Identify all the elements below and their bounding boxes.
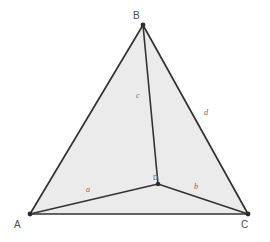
geometry-canvas: A B C D a b c d: [0, 0, 270, 242]
vertex-label-c: C: [241, 219, 248, 230]
vertex-label-b: B: [133, 10, 140, 21]
vertex-dot-a: [28, 212, 33, 217]
segment-label-b: b: [194, 182, 198, 191]
vertex-label-d: D: [153, 173, 159, 182]
segment-label-a: a: [86, 185, 90, 194]
vertex-label-a: A: [14, 219, 21, 230]
vertex-dot-c: [246, 212, 251, 217]
vertex-dot-b: [141, 23, 146, 28]
segment-label-c: c: [136, 91, 140, 100]
vertex-dot-d: [156, 182, 160, 186]
geometry-figure: A B C D a b c d: [0, 0, 270, 242]
